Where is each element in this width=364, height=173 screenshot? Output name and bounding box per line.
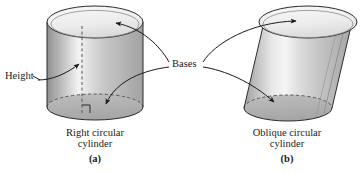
caption-b-part: (b) xyxy=(222,153,352,164)
caption-right-circular-cylinder: Right circular cylinder (a) xyxy=(30,127,160,164)
height-leader-stub xyxy=(33,76,40,80)
cylinder-figure: Height Bases Right circular cylinder (a)… xyxy=(0,0,364,173)
caption-oblique-circular-cylinder: Oblique circular cylinder (b) xyxy=(222,127,352,164)
caption-a-line2: cylinder xyxy=(30,138,160,149)
caption-b-line1: Oblique circular xyxy=(222,127,352,138)
right-circular-cylinder xyxy=(47,6,143,120)
height-label: Height xyxy=(5,70,34,81)
bases-label: Bases xyxy=(172,58,197,69)
caption-a-part: (a) xyxy=(30,153,160,164)
caption-a-line1: Right circular xyxy=(30,127,160,138)
oblique-circular-cylinder xyxy=(244,6,357,121)
caption-b-line2: cylinder xyxy=(222,138,352,149)
